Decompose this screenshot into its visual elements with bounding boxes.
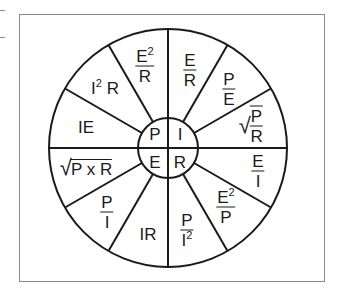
- formula-e-squared-over-r: E2R: [135, 48, 154, 85]
- formula-e-over-r: ER: [183, 52, 196, 89]
- formula-ie: IE: [78, 119, 94, 136]
- center-label-power: P: [149, 126, 160, 143]
- formula-e-squared-over-p: E2P: [216, 189, 235, 226]
- formula-ir: IR: [140, 226, 157, 243]
- center-label-current: I: [178, 126, 183, 143]
- center-label-resistance: R: [174, 154, 186, 171]
- formula-e-over-i: EI: [251, 153, 264, 190]
- ohms-law-wheel: [0, 0, 340, 291]
- formula-sqrt-p-times-r: √P x R: [60, 157, 112, 179]
- formula-i-squared-r: I2 R: [91, 80, 119, 97]
- formula-p-over-i-squared: PI2: [180, 212, 193, 249]
- formula-p-over-e: PE: [222, 71, 235, 108]
- formula-p-over-i: PI: [100, 194, 113, 231]
- formula-sqrt-p-over-r: √PR: [239, 106, 263, 145]
- center-label-voltage: E: [149, 154, 160, 171]
